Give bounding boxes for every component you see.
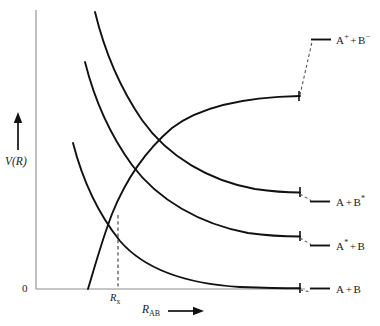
- y-axis-arrow-icon: [14, 112, 22, 150]
- state-label-ionic: A++B−: [336, 33, 370, 46]
- plus-sign: +: [349, 34, 358, 46]
- y-axis-label: V(R): [5, 156, 27, 168]
- state-label-ground-right: B: [354, 283, 362, 295]
- state-label-ionic-left: A: [336, 34, 344, 46]
- state-label-ground: A+B: [336, 282, 361, 295]
- state-label-ionic-right-sup: −: [366, 32, 371, 41]
- curve-ionic-a-plus-b-minus: [88, 40, 331, 290]
- state-label-a-excited-b-left: A: [336, 240, 344, 252]
- state-label-a-excited-b: A*+B: [336, 239, 365, 252]
- plus-sign: +: [344, 196, 353, 208]
- y-axis-label-text: V(R): [5, 155, 27, 167]
- state-label-ionic-right: B: [358, 34, 366, 46]
- crossing-tick-sub: x: [116, 297, 120, 306]
- curve-a-plus-b-excited: [95, 12, 330, 202]
- origin-label-text: 0: [22, 282, 28, 294]
- crossing-tick-label: Rx: [110, 293, 120, 306]
- state-label-a-excited-b-right: B: [358, 240, 366, 252]
- plus-sign: +: [344, 283, 353, 295]
- state-label-ground-left: A: [336, 283, 344, 295]
- x-axis-label-sub: AB: [149, 309, 160, 318]
- plot-canvas: [0, 0, 380, 326]
- x-axis-label-main: R: [142, 303, 149, 315]
- x-axis-arrow-icon: [168, 307, 204, 316]
- curve-a-excited-plus-b: [85, 62, 330, 246]
- x-axis-label: RAB: [142, 304, 160, 318]
- state-label-a-b-excited-left: A: [336, 196, 344, 208]
- state-label-a-b-excited-right: B: [354, 196, 362, 208]
- plus-sign: +: [348, 240, 357, 252]
- state-label-a-b-excited: A+B*: [336, 195, 365, 208]
- state-label-a-b-excited-right-sup: *: [361, 194, 365, 203]
- origin-label: 0: [22, 283, 28, 294]
- potential-energy-diagram: V(R) RAB 0 Rx A++B− A+B* A*+B A+B: [0, 0, 380, 326]
- state-label-ionic-left-sup: +: [344, 32, 349, 41]
